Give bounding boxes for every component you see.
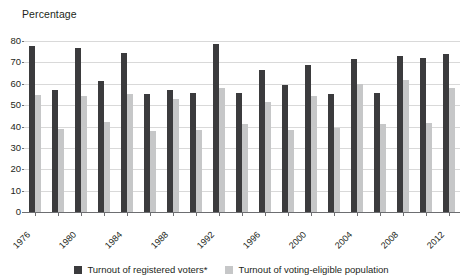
- bar-group-2004: [345, 41, 368, 212]
- bar-2010-eligible[interactable]: [426, 123, 432, 212]
- x-axis-label-1980: 1980: [57, 230, 78, 251]
- bar-group-1998: [276, 41, 299, 212]
- bar-group-2008: [391, 41, 414, 212]
- legend-item-voting-eligible[interactable]: Turnout of voting-eligible population: [225, 264, 388, 275]
- bar-group-1990: [185, 41, 208, 212]
- bar-group-1988: [162, 41, 185, 212]
- y-axis-ticks: 01020304050607080: [0, 41, 24, 212]
- bar-2006-eligible[interactable]: [380, 124, 386, 212]
- y-tick-label-20: 20: [10, 165, 21, 175]
- y-tick-label-60: 60: [10, 79, 21, 89]
- x-axis-label-2012: 2012: [424, 230, 445, 251]
- bar-group-1992: [208, 41, 231, 212]
- bar-group-2006: [368, 41, 391, 212]
- x-axis-label-1992: 1992: [195, 230, 216, 251]
- bar-group-1982: [93, 41, 116, 212]
- bar-1982-eligible[interactable]: [104, 122, 110, 212]
- bar-2002-eligible[interactable]: [334, 128, 340, 212]
- bar-1984-eligible[interactable]: [127, 94, 133, 212]
- bar-group-1980: [70, 41, 93, 212]
- y-tick-label-50: 50: [10, 100, 21, 110]
- bar-1988-eligible[interactable]: [173, 99, 179, 212]
- y-tick-label-10: 10: [10, 186, 21, 196]
- x-axis-label-1976: 1976: [11, 230, 32, 251]
- bar-group-2002: [322, 41, 345, 212]
- bar-2008-eligible[interactable]: [403, 80, 409, 212]
- bar-group-2010: [414, 41, 437, 212]
- y-tick-label-80: 80: [10, 36, 21, 46]
- bar-groups: [24, 41, 460, 212]
- chart-container: Percentage 01020304050607080 19761980198…: [0, 0, 463, 279]
- bar-2000-eligible[interactable]: [311, 96, 317, 212]
- bar-group-1984: [116, 41, 139, 212]
- bar-group-1986: [139, 41, 162, 212]
- x-axis-label-1988: 1988: [149, 230, 170, 251]
- bar-group-1978: [47, 41, 70, 212]
- bar-1996-eligible[interactable]: [265, 102, 271, 213]
- y-axis-title: Percentage: [22, 8, 77, 20]
- y-tick-label-0: 0: [16, 207, 21, 217]
- x-axis-labels: 1976198019841988199219962000200420082012: [24, 214, 460, 254]
- dark-swatch: [74, 266, 82, 274]
- plot-area: [24, 41, 460, 212]
- bar-group-1994: [231, 41, 254, 212]
- bar-1986-eligible[interactable]: [150, 131, 156, 212]
- bar-1980-eligible[interactable]: [81, 96, 87, 212]
- chart-legend: Turnout of registered voters*Turnout of …: [0, 264, 463, 275]
- bar-group-1976: [24, 41, 47, 212]
- bar-group-1996: [254, 41, 277, 212]
- light-swatch: [225, 266, 233, 274]
- bar-2004-eligible[interactable]: [357, 84, 363, 212]
- y-tick-label-40: 40: [10, 122, 21, 132]
- x-axis-label-2008: 2008: [379, 230, 400, 251]
- bar-1976-eligible[interactable]: [35, 95, 41, 212]
- legend-item-registered-voters[interactable]: Turnout of registered voters*: [74, 264, 207, 275]
- bar-1990-eligible[interactable]: [196, 130, 202, 212]
- y-tick-label-30: 30: [10, 143, 21, 153]
- legend-label: Turnout of registered voters*: [87, 264, 207, 275]
- x-axis-label-2004: 2004: [333, 230, 354, 251]
- bar-1978-eligible[interactable]: [58, 129, 64, 212]
- bar-1994-eligible[interactable]: [242, 124, 248, 212]
- x-axis-label-1984: 1984: [103, 230, 124, 251]
- y-tick-label-70: 70: [10, 58, 21, 68]
- bar-1998-eligible[interactable]: [288, 130, 294, 213]
- bar-1992-eligible[interactable]: [219, 88, 225, 212]
- bar-2012-eligible[interactable]: [449, 88, 455, 212]
- x-axis-label-2000: 2000: [287, 230, 308, 251]
- legend-label: Turnout of voting-eligible population: [238, 264, 388, 275]
- x-axis-label-1996: 1996: [241, 230, 262, 251]
- bar-group-2000: [299, 41, 322, 212]
- bar-group-2012: [437, 41, 460, 212]
